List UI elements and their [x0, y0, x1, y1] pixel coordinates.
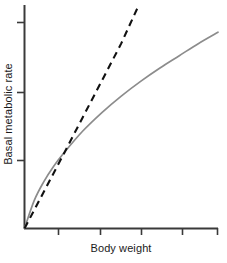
- y-axis-label: Basal metabolic rate: [0, 0, 16, 228]
- series-line-allometric: [25, 32, 219, 228]
- x-axis-label: Body weight: [24, 242, 218, 254]
- series-line-isometric: [25, 7, 139, 229]
- chart-plot-area: [0, 0, 227, 263]
- y-axis-ticks: [17, 23, 24, 161]
- chart-figure: Basal metabolic rate Body weight: [0, 0, 227, 263]
- x-axis-label-text: Body weight: [90, 242, 151, 254]
- y-axis-label-text: Basal metabolic rate: [2, 63, 14, 165]
